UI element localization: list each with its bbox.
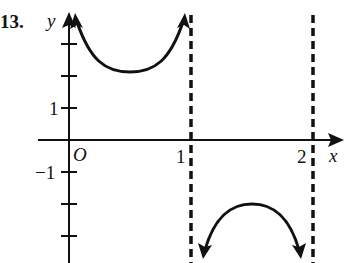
y-axis	[62, 12, 76, 263]
problem-number: 13.	[0, 11, 24, 32]
x-tick-label-2: 2	[297, 146, 307, 167]
arrowhead-branch1-right-icon	[177, 13, 190, 29]
y-tick-label-1: 1	[49, 98, 59, 119]
x-axis-label: x	[328, 145, 338, 166]
graph-figure: 13. y x O 1 −1 1 2	[0, 0, 346, 263]
origin-label: O	[73, 144, 87, 165]
y-axis-label: y	[45, 10, 56, 31]
curve-branch-2	[205, 204, 299, 250]
x-tick-label-1: 1	[176, 146, 186, 167]
y-tick-label-neg1: −1	[35, 162, 55, 183]
curve-branch-1	[77, 22, 183, 72]
